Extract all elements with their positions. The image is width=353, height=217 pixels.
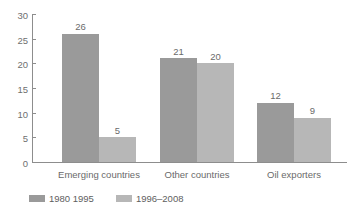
cat-label-oil-exporters: Oil exporters (240, 170, 348, 180)
y-axis-labels: 30 25 20 15 10 5 0 (0, 0, 28, 217)
bar-other-1980-1995 (160, 58, 197, 162)
bar-value-other-1980-1995: 21 (160, 47, 197, 57)
bar-emerging-1980-1995 (62, 34, 99, 162)
bar-value-oil-1996-2008: 9 (294, 106, 331, 116)
legend-swatch-icon-1996-2008 (116, 195, 132, 202)
y-tick-label-30: 30 (2, 11, 28, 21)
bars-layer: 26 5 21 20 12 9 (33, 14, 347, 162)
bar-emerging-1996-2008 (99, 137, 136, 162)
legend-label-1980-1995: 1980 1995 (49, 194, 94, 204)
y-tick-label-25: 25 (2, 36, 28, 46)
legend-label-1996-2008: 1996–2008 (136, 194, 184, 204)
legend-item-1980-1995: 1980 1995 (29, 194, 94, 204)
x-axis-category-labels: Emerging countries Other countries Oil e… (33, 170, 347, 184)
legend-swatch-icon-1980-1995 (29, 195, 45, 202)
bar-chart-figure: 30 25 20 15 10 5 0 26 5 21 20 12 9 Emerg… (0, 0, 353, 217)
bar-value-emerging-1996-2008: 5 (99, 126, 136, 136)
bar-value-other-1996-2008: 20 (197, 52, 234, 62)
bar-value-emerging-1980-1995: 26 (62, 22, 99, 32)
bar-other-1996-2008 (197, 63, 234, 162)
bar-value-oil-1980-1995: 12 (257, 91, 294, 101)
chart-legend: 1980 1995 1996–2008 (29, 194, 183, 204)
cat-label-other-countries: Other countries (139, 170, 255, 180)
y-tick-label-20: 20 (2, 60, 28, 70)
bar-oil-1996-2008 (294, 118, 331, 162)
x-axis-line (32, 162, 347, 163)
bar-oil-1980-1995 (257, 103, 294, 162)
y-tick-label-5: 5 (2, 134, 28, 144)
y-tick-label-15: 15 (2, 85, 28, 95)
y-tick-label-0: 0 (2, 159, 28, 169)
legend-item-1996-2008: 1996–2008 (116, 194, 184, 204)
y-tick-label-10: 10 (2, 110, 28, 120)
